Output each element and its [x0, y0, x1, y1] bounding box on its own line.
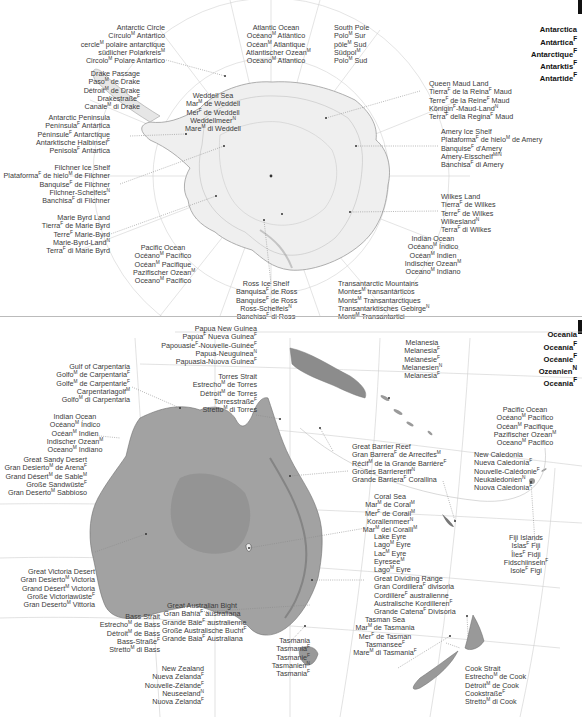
- label-lake-eyre: Lake EyreLagoM EyreLacM EyreEyreseeMLago…: [374, 533, 411, 574]
- label-great-victoria-desert: Great Victoria DesertGran DesiertoM Vict…: [20, 568, 95, 609]
- label-translation: OceanoM Indiano: [40, 446, 110, 454]
- label-gulf-of-carpentaria: Gulf of CarpentariaGolfoM de Carpentaria…: [56, 363, 130, 404]
- title-line: AntarktisF: [531, 59, 577, 71]
- label-translation: Grande BarrieraF Corallina: [352, 476, 446, 484]
- label-tasman-sea: Tasman SeaMarM de TasmaniaMerF de Tasman…: [350, 616, 420, 657]
- title-line: AntartideF: [531, 71, 577, 83]
- label-queen-maud-land: Queen Maud LandTierraF de la ReinaF Maud…: [429, 80, 513, 121]
- label-translation: Nuova ZelandaF: [145, 698, 204, 706]
- label-wilkes-land: Wilkes LandTierraF de WilkesTerreF de Wi…: [441, 193, 496, 234]
- label-antarctic-circle: Antarctic CircleCírculoM Antárticocercle…: [81, 24, 165, 65]
- label-indian-ocean-oceania: Indian OceanOcéanoM ÍndicoOcéanM IndienI…: [40, 413, 110, 454]
- label-translation: TasmaniaF: [272, 670, 310, 678]
- label-coral-sea: Coral SeaMarM de CoralMMerF de CorailMKo…: [360, 493, 420, 534]
- panel-divider: [0, 316, 582, 317]
- label-translation: PenisolaF Antartica: [36, 147, 110, 155]
- title-line: OceaníaF: [539, 340, 577, 352]
- label-translation: Papuasia-Nuova GuineaF: [161, 358, 257, 366]
- label-translation: MareM di TasmaniaF: [350, 649, 420, 657]
- section-title-antarctica: AntarcticaAntárticaFAntarctiqueFAntarkti…: [531, 26, 577, 83]
- title-line: AntarctiqueF: [531, 47, 577, 59]
- label-melanesia: MelanesiaMelanesiaFMélanésieFMelanesienN…: [397, 339, 447, 380]
- oceania-map-panel: OceaniaOceaníaFOcéanieFOzeanienNOceaniaF…: [0, 318, 582, 717]
- label-great-australian-bight: Great Australian BightGran BahíaF austra…: [162, 602, 242, 643]
- label-filchner-ice-shelf: Filchner Ice ShelfPlataformaF de hieloM …: [4, 164, 110, 205]
- label-translation: MareM di Weddell: [183, 125, 243, 133]
- label-torres-strait: Torres StraitEstrechoM de TorresDétroitM…: [193, 373, 257, 414]
- section-title-oceania: OceaniaOceaníaFOcéanieFOzeanienNOceaniaF: [539, 331, 577, 388]
- label-translation: PoloM Sud: [334, 57, 369, 65]
- label-translation: StrettoM di Torres: [193, 406, 257, 414]
- label-pacific-ocean-oceania: Pacific OceanOcéanoM PacíficoOcéanM Paci…: [490, 406, 560, 447]
- label-translation: MelanesiaF: [397, 372, 447, 380]
- title-line: Oceania: [539, 331, 577, 340]
- label-translation: Nuova CaledoniaF: [474, 484, 540, 492]
- label-translation: Gran DesertoM Sabbioso: [5, 489, 87, 497]
- label-translation: Gran DesertoM Vittoria: [20, 601, 95, 609]
- label-weddell-sea: Weddell SeaMarM de WeddellMerF de Weddel…: [183, 92, 243, 133]
- label-new-caledonia: New CaledoniaNueva CaledoniaFNouvelle-Ca…: [474, 451, 540, 492]
- label-cook-strait: Cook StraitEstrechoM de CookDétroitM de …: [465, 665, 526, 706]
- label-indian-ocean-antarctica: Indian OceanOcéanoM ÍndicoOcéanM IndienI…: [403, 235, 463, 276]
- title-line: OceaniaF: [539, 376, 577, 388]
- label-translation: CircoloM Polare Antartico: [81, 57, 165, 65]
- label-pacific-ocean-antarctica: Pacific OceanOcéanoM PacíficoOcéanM Paci…: [133, 244, 193, 285]
- label-translation: CanaleM di Drake: [84, 103, 140, 111]
- label-great-barrier-reef: Great Barrier ReefGran BarreraF de Arrec…: [352, 443, 446, 484]
- label-translation: StrettoM di Bass: [100, 646, 160, 654]
- label-translation: GolfoM di Carpentaria: [56, 396, 130, 404]
- antarctica-map-panel: AntarcticaAntárticaFAntarctiqueFAntarkti…: [0, 0, 582, 316]
- label-papua-new-guinea: Papua New GuineaPapúaF Nueva GuineaFPapo…: [161, 325, 257, 366]
- label-translation: BanchisaF di Filchner: [4, 197, 110, 205]
- label-great-dividing-range: Great Dividing RangeGran CordilleraF div…: [374, 575, 456, 616]
- label-south-pole: South PolePoloM SurpôleM SudSüdpolMPoloM…: [334, 24, 369, 65]
- label-translation: IsoleF Figi: [496, 567, 556, 575]
- label-translation: OceanoM Atlantico: [246, 57, 306, 65]
- label-fiji-islands: Fiji IslandsIslasF FijiÎlesF FidjiFidsch…: [496, 534, 556, 575]
- label-translation: Grande BaiaF Australiana: [162, 635, 242, 643]
- title-line: Antarctica: [531, 26, 577, 35]
- label-translation: OceanoM Pacifico: [133, 277, 193, 285]
- label-marie-byrd-land: Marie Byrd LandTierraF de Marie ByrdTerr…: [42, 214, 110, 255]
- label-great-sandy-desert: Great Sandy DesertGran DesiertoM de Aren…: [5, 456, 87, 497]
- label-drake-passage: Drake PassagePasoM de DrakeDétroitM de D…: [84, 70, 140, 111]
- label-tasmania: TasmaniaTasmaniaFTasmanieFTasmanienNTasm…: [272, 637, 310, 678]
- label-amery-ice-shelf: Amery Ice ShelfPlataformaF de hieloM de …: [441, 128, 542, 169]
- title-line: OcéanieF: [539, 352, 577, 364]
- label-new-zealand: New ZealandNueva ZelandaFNouvelle-Zéland…: [145, 665, 204, 706]
- label-translation: TerraF della ReginaF Maud: [429, 113, 513, 121]
- label-atlantic-ocean: Atlantic OceanOcéanoM AtlánticoOcéanM At…: [246, 24, 306, 65]
- label-translation: StrettoM di Cook: [465, 698, 526, 706]
- label-bass-strait: Bass StraitEstrechoM de BassDétroitM de …: [100, 613, 160, 654]
- label-translation: BanchisaF di Amery: [441, 161, 542, 169]
- label-antarctic-peninsula: Antarctic PeninsulaPenínsulaF AntárticaP…: [36, 114, 110, 155]
- label-translation: OceanoM Pacifico: [490, 439, 560, 447]
- label-translation: TerraF di Marie Byrd: [42, 247, 110, 255]
- title-line: AntárticaF: [531, 35, 577, 47]
- label-translation: OceanoM Indiano: [403, 268, 463, 276]
- title-line: OzeanienN: [539, 364, 577, 376]
